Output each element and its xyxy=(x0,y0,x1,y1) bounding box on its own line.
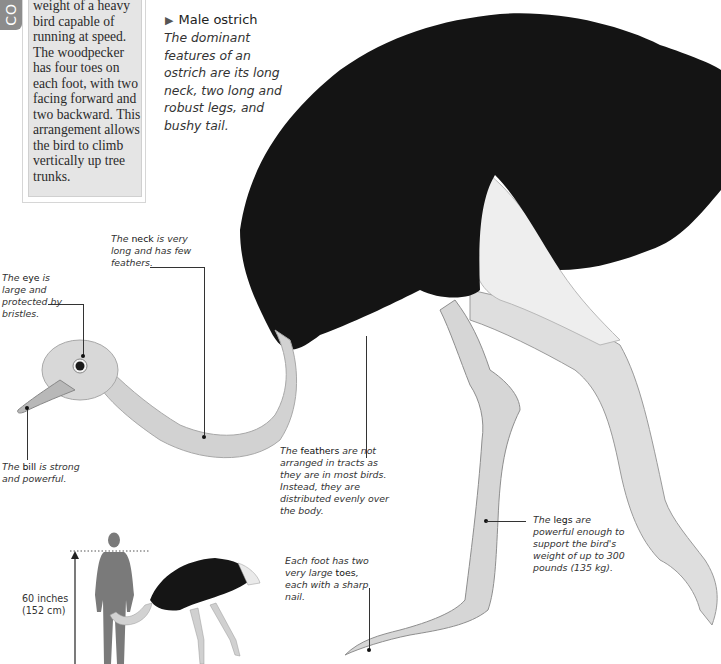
callout-neck-leader-v xyxy=(204,267,205,435)
figure-title-text: Male ostrich xyxy=(178,12,257,27)
figure-description: The dominant features of an ostrich are … xyxy=(164,29,284,134)
callout-feathers-leader-v xyxy=(366,336,367,458)
scale-label: 60 inches (152 cm) xyxy=(22,593,68,617)
callout-eye: The eye is large and protected by bristl… xyxy=(2,272,72,320)
callout-bill: The bill is strong and powerful. xyxy=(2,461,82,485)
mini-ostrich xyxy=(110,558,260,664)
callout-legs-leader-h xyxy=(486,521,526,522)
ostrich-neck xyxy=(90,330,297,458)
figure-title: ▶Male ostrich xyxy=(165,12,258,27)
triangle-marker-icon: ▶ xyxy=(165,14,173,27)
callout-eye-leader-v xyxy=(83,304,84,356)
callout-legs: The legs are powerful enough to support … xyxy=(533,514,625,574)
callout-feathers: The feathers are not arranged in tracts … xyxy=(280,445,390,517)
callout-neck: The neck is very long and has few feathe… xyxy=(111,233,201,269)
callout-toes: Each foot has two very large toes, each … xyxy=(285,555,377,603)
scale-label-cm: (152 cm) xyxy=(22,605,68,617)
callout-bill-dot xyxy=(25,406,29,410)
callout-eye-leader-h xyxy=(48,304,84,305)
callout-toes-leader-v xyxy=(369,588,370,650)
callout-neck-leader-h xyxy=(150,267,204,268)
callout-neck-dot xyxy=(202,435,206,439)
callout-bill-leader-v xyxy=(27,408,28,460)
scale-label-inches: 60 inches xyxy=(22,593,68,605)
callout-eye-dot xyxy=(81,354,85,358)
callout-toes-dot xyxy=(367,648,371,652)
human-silhouette xyxy=(95,533,134,664)
